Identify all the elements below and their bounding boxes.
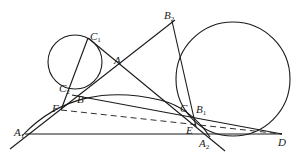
- label-d: D: [278, 137, 286, 148]
- diagram-drawing: [0, 0, 292, 162]
- label-c2: C2: [59, 83, 70, 96]
- label-a1: A1: [14, 127, 24, 140]
- label-b1: B1: [196, 104, 206, 117]
- label-a: A: [114, 55, 121, 66]
- label-c1: C1: [90, 31, 101, 44]
- geometry-diagram: C1 A B2 C2 B F A1 C B1 E A2 D: [0, 0, 292, 162]
- large-circle: [176, 22, 290, 136]
- label-e: E: [186, 125, 193, 136]
- label-f: F: [52, 103, 59, 114]
- label-a2: A2: [199, 138, 209, 151]
- label-c: C: [180, 103, 187, 114]
- label-b: B: [77, 94, 84, 105]
- label-b2: B2: [164, 10, 174, 23]
